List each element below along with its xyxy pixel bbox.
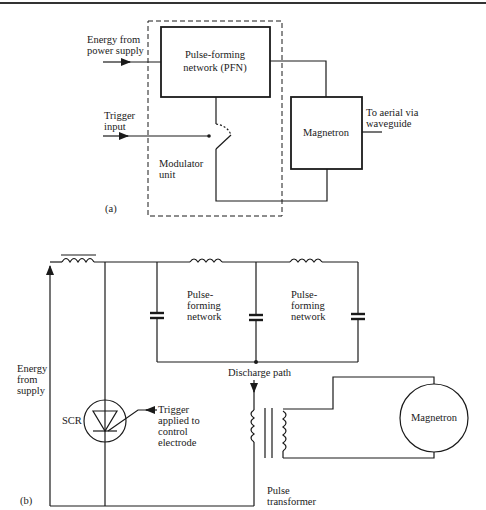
magnetron-block-label: Magnetron	[303, 127, 350, 138]
magnetron-label: Magnetron	[411, 412, 458, 423]
discharge-junction-dot	[254, 360, 258, 364]
modulator-label-2: unit	[159, 169, 175, 180]
pfn-right-label-3: network	[291, 311, 326, 322]
energy-supply-label-3: supply	[17, 385, 46, 396]
pfn-left-label-2: forming	[187, 300, 222, 311]
scr-gate-lead	[108, 410, 148, 431]
pfn-left-label-1: Pulse-	[187, 289, 214, 300]
energy-input-label-1: Energy from	[87, 34, 140, 45]
trigger-note-3: control	[158, 426, 188, 437]
energy-input-label-2: power supply	[87, 45, 145, 56]
pulse-transformer-label-2: transformer	[267, 496, 316, 507]
trigger-contact-dot	[207, 134, 211, 138]
pfn-inductor-2	[290, 259, 322, 262]
energy-supply-label-1: Energy	[17, 363, 48, 374]
pfn-right-label-2: forming	[291, 300, 326, 311]
pfn-left-label-3: network	[187, 311, 222, 322]
secondary-bottom-wire	[283, 452, 434, 458]
diagram-a: Pulse-forming network (PFN) Energy from …	[87, 21, 419, 216]
pulse-transformer-label-1: Pulse	[267, 485, 290, 496]
trigger-note-1: Trigger	[158, 404, 190, 415]
trigger-note-2: applied to	[158, 415, 200, 426]
switch-arc	[216, 124, 231, 135]
pfn-label-1: Pulse-forming	[185, 49, 246, 60]
switch-blade	[216, 135, 231, 149]
trigger-note-4: electrode	[158, 437, 197, 448]
pfn-inductor-1	[190, 259, 222, 262]
switch-return-wire	[216, 149, 327, 201]
pfn-label-2: network (PFN)	[183, 62, 247, 74]
scr-label: SCR	[62, 415, 82, 426]
diagram-a-label: (a)	[105, 203, 117, 215]
trigger-input-label-2: input	[104, 121, 126, 132]
trigger-input-label-1: Trigger	[104, 110, 136, 121]
pfn-right-label-1: Pulse-	[291, 289, 318, 300]
figure-page: ·· ··· ··· ····· ···· Pulse-forming netw…	[0, 0, 486, 510]
discharge-path-label: Discharge path	[228, 367, 292, 378]
transformer-secondary-coil	[283, 411, 286, 451]
diagram-b: Energy from supply SCR Trigger app	[17, 255, 468, 507]
output-label-1: To aerial via	[366, 107, 419, 118]
diagram-b-label: (b)	[20, 495, 33, 507]
charging-inductor	[62, 259, 94, 263]
energy-supply-label-2: from	[17, 374, 37, 385]
modulator-label-1: Modulator	[159, 158, 204, 169]
figure-svg: Pulse-forming network (PFN) Energy from …	[0, 0, 486, 510]
transformer-primary-coil	[251, 410, 254, 442]
pfn-to-magnetron-wire	[270, 61, 326, 97]
output-label-2: waveguide	[366, 118, 412, 129]
